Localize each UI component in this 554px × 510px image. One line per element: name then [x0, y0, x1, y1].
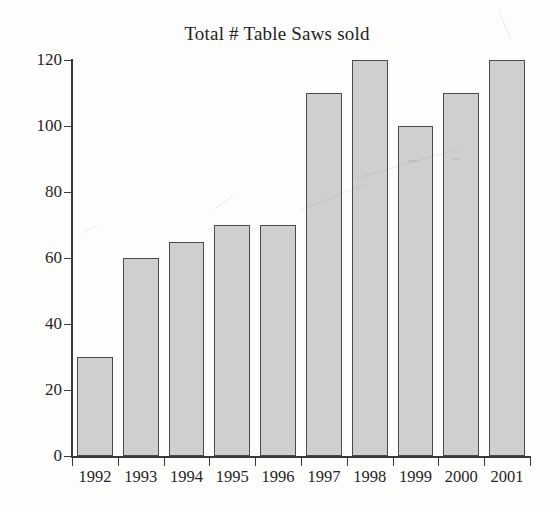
x-axis-tick-label: 1998 [347, 468, 393, 486]
bar [489, 60, 525, 456]
bar [169, 242, 205, 457]
y-axis-tick-label: 0 [0, 447, 62, 464]
y-axis-tick [64, 258, 71, 259]
x-axis-tick-label: 1995 [209, 468, 255, 486]
bar [306, 93, 342, 456]
bar [398, 126, 434, 456]
x-axis-tick [530, 457, 531, 466]
plot-area [72, 60, 530, 456]
chart-figure: Total # Table Saws sold 020406080100120 … [0, 0, 554, 510]
x-axis-tick [438, 457, 439, 466]
x-axis-tick-label: 1999 [393, 468, 439, 486]
page-title: Total # Table Saws sold [0, 22, 554, 46]
bar [443, 93, 479, 456]
x-axis-tick-label: 1993 [118, 468, 164, 486]
x-axis-tick [164, 457, 165, 466]
x-axis-tick [301, 457, 302, 466]
x-axis-tick-label: 1992 [72, 468, 118, 486]
x-axis-tick-label: 1994 [164, 468, 210, 486]
y-axis-tick-label: 40 [0, 315, 62, 332]
y-axis-tick [64, 324, 71, 325]
x-axis-tick [484, 457, 485, 466]
y-axis-tick [64, 192, 71, 193]
y-axis-tick [64, 60, 71, 61]
y-axis-tick [64, 390, 71, 391]
y-axis-tick-label: 60 [0, 249, 62, 266]
x-axis-tick [393, 457, 394, 466]
x-axis-tick-label: 1996 [255, 468, 301, 486]
y-axis-tick-label: 100 [0, 117, 62, 134]
y-axis-tick-label: 80 [0, 183, 62, 200]
bar [214, 225, 250, 456]
x-axis-tick [347, 457, 348, 466]
x-axis-tick-label: 2001 [484, 468, 530, 486]
bar [77, 357, 113, 456]
x-axis-tick-label: 1997 [301, 468, 347, 486]
x-axis-tick-label: 2000 [438, 468, 484, 486]
y-axis-tick-label: 120 [0, 51, 62, 68]
x-axis-tick [72, 457, 73, 466]
bar [352, 60, 388, 456]
y-axis-tick-label: 20 [0, 381, 62, 398]
x-axis-tick [118, 457, 119, 466]
bar [260, 225, 296, 456]
bar [123, 258, 159, 456]
x-axis-tick [209, 457, 210, 466]
y-axis-tick [64, 456, 71, 457]
x-axis-tick [255, 457, 256, 466]
y-axis-tick [64, 126, 71, 127]
